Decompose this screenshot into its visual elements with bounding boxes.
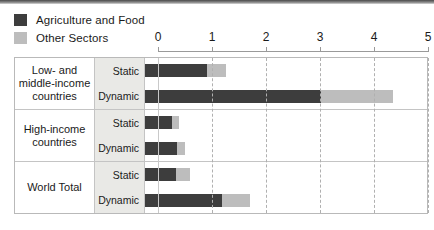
row-group-label: High-income countries (15, 110, 95, 161)
scenario-label-static: Static (95, 110, 144, 136)
bar-segment-agriculture (145, 90, 321, 103)
scenario-label-static: Static (95, 58, 144, 84)
legend-swatch-agriculture (14, 14, 27, 26)
x-axis-tick-0: 0 (155, 30, 162, 44)
stacked-bar (145, 194, 250, 207)
bar-segment-agriculture (145, 142, 177, 155)
bar-row (145, 162, 427, 188)
row-group-plot (145, 110, 427, 161)
bar-segment-other (222, 194, 250, 207)
x-axis-tick-5: 5 (425, 30, 432, 44)
stacked-bar (145, 116, 179, 129)
scenario-label-column: StaticDynamic (95, 110, 145, 161)
row-group-label: World Total (15, 162, 95, 213)
bar-segment-agriculture (145, 194, 222, 207)
stacked-bar (145, 64, 226, 77)
chart-row-group: World TotalStaticDynamic (15, 162, 427, 213)
chart-table-frame: Low- and middle-income countriesStaticDy… (14, 57, 428, 214)
bar-row (145, 136, 427, 162)
bar-row (145, 188, 427, 214)
scenario-label-column: StaticDynamic (95, 162, 145, 213)
x-axis-tickmark-0 (158, 47, 159, 52)
x-axis-tick-3: 3 (317, 30, 324, 44)
bar-segment-agriculture (145, 116, 172, 129)
chart-row-group: Low- and middle-income countriesStaticDy… (15, 58, 427, 110)
x-axis-tickmark-4 (374, 47, 375, 52)
bar-row (145, 58, 427, 84)
bar-row (145, 84, 427, 110)
bar-segment-other (177, 142, 185, 155)
bar-segment-other (172, 116, 179, 129)
scenario-label-dynamic: Dynamic (95, 84, 144, 110)
bar-segment-other (207, 64, 226, 77)
x-axis-tick-2: 2 (263, 30, 270, 44)
scenario-label-static: Static (95, 162, 144, 188)
bar-segment-other (321, 90, 394, 103)
x-axis-tickmark-2 (266, 47, 267, 52)
row-group-plot (145, 58, 427, 109)
stacked-bar (145, 90, 393, 103)
x-axis-line (158, 51, 428, 52)
scenario-label-dynamic: Dynamic (95, 188, 144, 214)
bar-row (145, 110, 427, 136)
scenario-label-column: StaticDynamic (95, 58, 145, 109)
x-axis-tick-4: 4 (371, 30, 378, 44)
stacked-bar (145, 142, 186, 155)
legend-item-agriculture: Agriculture and Food (14, 12, 145, 27)
x-axis-tickmark-3 (320, 47, 321, 52)
legend-label-agriculture: Agriculture and Food (36, 14, 145, 26)
x-axis-tick-1: 1 (209, 30, 216, 44)
top-edge-shadow (0, 0, 434, 4)
bar-segment-other (176, 168, 190, 181)
row-group-label: Low- and middle-income countries (15, 58, 95, 109)
gridline-5 (428, 58, 429, 213)
bar-segment-agriculture (145, 168, 176, 181)
row-group-plot (145, 162, 427, 213)
chart-row-group: High-income countriesStaticDynamic (15, 110, 427, 162)
stacked-bar (145, 168, 190, 181)
x-axis-tickmark-5 (428, 47, 429, 52)
scenario-label-dynamic: Dynamic (95, 136, 144, 162)
x-axis-tickmark-1 (212, 47, 213, 52)
bar-segment-agriculture (145, 64, 207, 77)
x-axis: 012345 (0, 30, 434, 58)
